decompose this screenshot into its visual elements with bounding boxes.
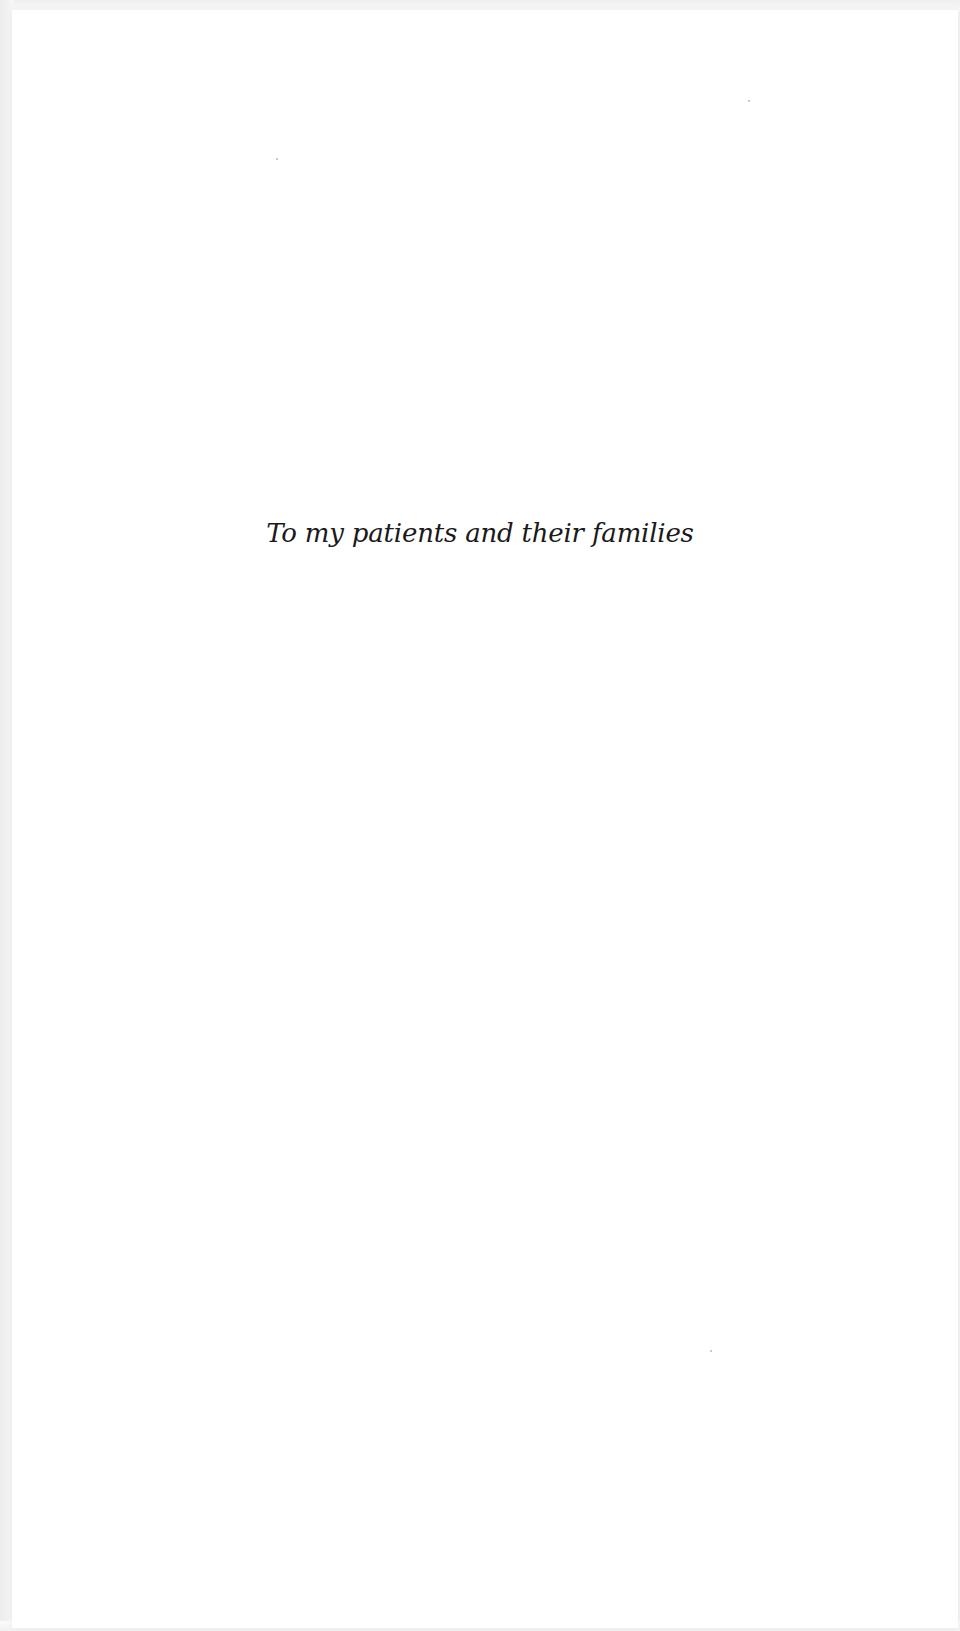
book-page [12, 10, 958, 1628]
paper-speck [748, 100, 750, 102]
dedication-text: To my patients and their families [0, 517, 960, 549]
paper-speck [710, 1350, 712, 1352]
paper-speck [276, 158, 278, 160]
